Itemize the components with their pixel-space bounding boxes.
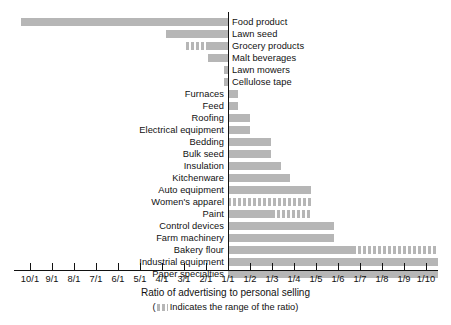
x-axis-tick bbox=[118, 263, 119, 270]
x-axis-tick-label: 1/10 bbox=[417, 273, 436, 285]
bar-range-segment bbox=[186, 42, 209, 50]
x-axis-label: Ratio of advertising to personal selling bbox=[0, 286, 451, 300]
x-axis-tick bbox=[250, 263, 251, 270]
bar-category-label: Insulation bbox=[184, 160, 224, 172]
bar-segment bbox=[228, 186, 311, 194]
advertising-ratio-chart: Food productLawn seedGrocery productsMal… bbox=[0, 0, 451, 325]
bar-segment bbox=[228, 174, 290, 182]
bar-segment bbox=[228, 126, 250, 134]
x-axis-tick bbox=[272, 263, 273, 270]
bar-row: Bulk seed bbox=[0, 148, 451, 160]
x-axis-tick bbox=[184, 263, 185, 270]
bar-segment bbox=[209, 42, 228, 50]
bar-segment bbox=[228, 210, 272, 218]
x-axis-tick bbox=[140, 263, 141, 270]
bar-category-label: Food product bbox=[232, 16, 287, 28]
bar-category-label: Farm machinery bbox=[156, 232, 224, 244]
bar-segment bbox=[228, 102, 238, 110]
bar-row: Food product bbox=[0, 16, 451, 28]
bar-row: Furnaces bbox=[0, 88, 451, 100]
x-axis-tick bbox=[74, 263, 75, 270]
x-axis-tick bbox=[162, 263, 163, 270]
bar-row: Lawn seed bbox=[0, 28, 451, 40]
bar-row: Lawn mowers bbox=[0, 64, 451, 76]
x-axis-tick bbox=[426, 263, 427, 270]
x-axis-tick bbox=[206, 263, 207, 270]
bar-row: Women's apparel bbox=[0, 196, 451, 208]
bar-row: Control devices bbox=[0, 220, 451, 232]
bar-segment bbox=[228, 150, 271, 158]
x-axis-tick-label: 9/1 bbox=[45, 273, 58, 285]
x-axis-tick-label: 1/9 bbox=[397, 273, 410, 285]
x-axis-tick-label: 8/1 bbox=[67, 273, 80, 285]
bar-category-label: Women's apparel bbox=[151, 196, 224, 208]
bar-row: Bedding bbox=[0, 136, 451, 148]
x-axis-tick bbox=[30, 263, 31, 270]
bar-category-label: Roofing bbox=[192, 112, 224, 124]
legend-open-paren: ( bbox=[153, 302, 156, 312]
x-axis-tick-label: 3/1 bbox=[177, 273, 190, 285]
bar-category-label: Electrical equipment bbox=[139, 124, 224, 136]
bar-category-label: Paint bbox=[203, 208, 224, 220]
x-axis-tick-label: 10/1 bbox=[21, 273, 40, 285]
bar-range-segment bbox=[272, 210, 311, 218]
x-axis-tick-label: 1/4 bbox=[287, 273, 300, 285]
x-axis-tick-label: 4/1 bbox=[155, 273, 168, 285]
plot-area: Food productLawn seedGrocery productsMal… bbox=[0, 0, 451, 262]
bar-category-label: Malt beverages bbox=[232, 52, 296, 64]
x-axis-tick-label: 1/5 bbox=[309, 273, 322, 285]
bar-category-label: Auto equipment bbox=[158, 184, 224, 196]
x-axis-tick bbox=[338, 263, 339, 270]
bar-row: Electrical equipment bbox=[0, 124, 451, 136]
bar-row: Malt beverages bbox=[0, 52, 451, 64]
bar-range-segment bbox=[353, 246, 438, 254]
bar-category-label: Bedding bbox=[190, 136, 224, 148]
x-axis-tick-label: 1/7 bbox=[353, 273, 366, 285]
bar-category-label: Grocery products bbox=[232, 40, 304, 52]
zero-axis-line bbox=[228, 12, 229, 264]
legend-text: Indicates the range of the ratio) bbox=[170, 302, 299, 312]
bar-row: Cellulose tape bbox=[0, 76, 451, 88]
x-axis-tick bbox=[52, 263, 53, 270]
bar-row: Bakery flour bbox=[0, 244, 451, 256]
x-axis-tick bbox=[316, 263, 317, 270]
bar-row: Insulation bbox=[0, 160, 451, 172]
bar-segment bbox=[166, 30, 228, 38]
x-axis-tick-label: 5/1 bbox=[133, 273, 146, 285]
bar-category-label: Lawn seed bbox=[232, 28, 277, 40]
bar-category-label: Cellulose tape bbox=[232, 76, 292, 88]
bar-segment bbox=[228, 162, 281, 170]
bar-segment bbox=[228, 138, 271, 146]
x-axis-tick-label: 7/1 bbox=[89, 273, 102, 285]
x-axis-line bbox=[14, 270, 438, 271]
bar-row: Feed bbox=[0, 100, 451, 112]
x-axis-tick-label: 2/1 bbox=[199, 273, 212, 285]
x-axis-tick-label: 1/1 bbox=[221, 273, 234, 285]
bar-category-label: Feed bbox=[203, 100, 224, 112]
bar-segment bbox=[228, 90, 238, 98]
bar-segment bbox=[228, 234, 334, 242]
bar-category-label: Control devices bbox=[159, 220, 224, 232]
bar-category-label: Bakery flour bbox=[174, 244, 224, 256]
bar-segment bbox=[228, 246, 353, 254]
bar-row: Paint bbox=[0, 208, 451, 220]
x-axis-tick bbox=[404, 263, 405, 270]
range-pattern-swatch-icon bbox=[157, 304, 168, 311]
bar-category-label: Lawn mowers bbox=[232, 64, 290, 76]
bar-segment bbox=[228, 114, 250, 122]
bar-row: Grocery products bbox=[0, 40, 451, 52]
x-axis-tick bbox=[382, 263, 383, 270]
bar-segment bbox=[228, 222, 334, 230]
bar-row: Roofing bbox=[0, 112, 451, 124]
bar-row: Auto equipment bbox=[0, 184, 451, 196]
bar-range-segment bbox=[228, 198, 311, 206]
x-axis-tick bbox=[294, 263, 295, 270]
x-axis-tick bbox=[228, 263, 229, 270]
x-axis-tick-label: 1/2 bbox=[243, 273, 256, 285]
bar-category-label: Kitchenware bbox=[172, 172, 224, 184]
bar-category-label: Bulk seed bbox=[183, 148, 224, 160]
bar-row: Farm machinery bbox=[0, 232, 451, 244]
x-axis-tick bbox=[360, 263, 361, 270]
x-axis-tick-label: 1/6 bbox=[331, 273, 344, 285]
x-axis-tick-label: 6/1 bbox=[111, 273, 124, 285]
